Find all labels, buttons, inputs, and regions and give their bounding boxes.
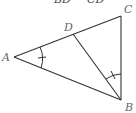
label-b: B [124, 101, 133, 113]
top-text-cd: CD [87, 0, 104, 6]
label-a: A [1, 51, 10, 64]
label-d: D [63, 21, 73, 34]
angle-a-tick [38, 57, 46, 58]
triangle-diagram: BD CD A D C B [0, 0, 136, 113]
top-text-bd: BD [53, 0, 71, 6]
label-c: C [124, 3, 133, 16]
